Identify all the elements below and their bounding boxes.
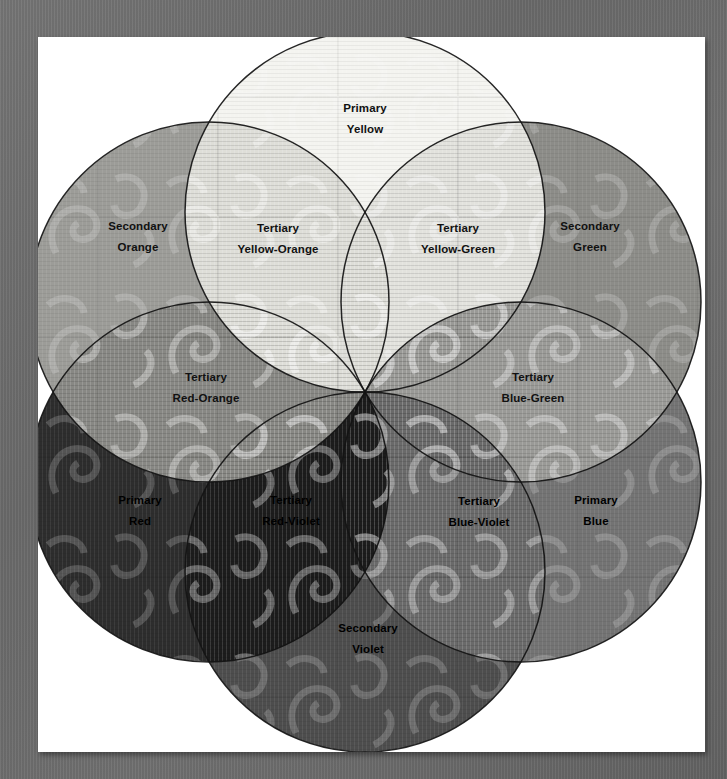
color-wheel-diagram bbox=[38, 37, 705, 752]
weave-texture-overlay bbox=[38, 37, 705, 752]
picture-frame-border: PrimaryYellowTertiaryYellow-GreenSeconda… bbox=[0, 0, 727, 779]
diagram-panel: PrimaryYellowTertiaryYellow-GreenSeconda… bbox=[38, 37, 705, 752]
